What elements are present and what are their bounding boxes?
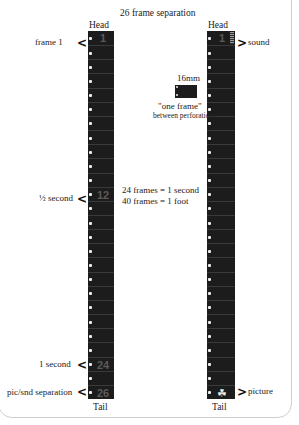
frame-number: 24 <box>94 358 112 372</box>
film-frame <box>88 144 114 159</box>
film-frame <box>88 73 114 88</box>
perforation <box>89 363 92 366</box>
film-frame <box>207 144 235 159</box>
perforation <box>208 165 211 168</box>
perforation <box>89 66 92 69</box>
film-frame <box>207 201 235 216</box>
right-tail-label: Tail <box>212 402 227 412</box>
right-film-strip: 1☘ <box>207 31 235 399</box>
perforation <box>208 122 211 125</box>
perforation <box>89 80 92 83</box>
perforation <box>89 137 92 140</box>
frame-number: 12 <box>94 188 112 202</box>
perforation <box>208 179 211 182</box>
film-frame <box>207 45 235 60</box>
film-frame <box>207 88 235 103</box>
perforation <box>208 52 211 55</box>
film-frame <box>88 88 114 103</box>
perforation <box>89 94 92 97</box>
perforation <box>89 377 92 380</box>
perforation <box>208 292 211 295</box>
perforation <box>89 165 92 168</box>
film-frame <box>207 130 235 145</box>
film-frame <box>207 257 235 272</box>
film-frame <box>88 229 114 244</box>
chevron-right-icon: > <box>237 386 247 398</box>
film-frame <box>207 59 235 74</box>
perforation <box>208 222 211 225</box>
perforation <box>208 80 211 83</box>
film-frame <box>207 314 235 329</box>
perforation <box>89 222 92 225</box>
film-frame: ☘ <box>207 385 235 400</box>
film-frame <box>88 201 114 216</box>
film-frame <box>207 328 235 343</box>
right-head-label: Head <box>208 20 228 30</box>
chevron-left-icon: < <box>77 37 87 49</box>
film-frame: 1 <box>207 31 235 45</box>
chevron-right-icon: > <box>237 37 247 49</box>
perforation <box>89 292 92 295</box>
perforation <box>176 94 178 96</box>
perforation <box>89 52 92 55</box>
perforation <box>89 391 92 394</box>
film-frame <box>88 371 114 386</box>
perforation <box>208 306 211 309</box>
film-frame <box>88 173 114 188</box>
left-head-label: Head <box>89 20 109 30</box>
marker-label-sound: sound <box>248 37 270 47</box>
marker-label-picture: picture <box>248 386 273 396</box>
film-frame <box>88 102 114 117</box>
perforation <box>89 122 92 125</box>
perforation <box>208 391 211 394</box>
perforation <box>208 207 211 210</box>
perforation <box>208 335 211 338</box>
film-frame <box>88 342 114 357</box>
inset-caption-line2: between perforations <box>153 111 216 120</box>
marker-label-one-second: 1 second <box>39 359 71 369</box>
film-frame <box>88 243 114 258</box>
film-frame: 24 <box>88 357 114 372</box>
perforation <box>208 94 211 97</box>
film-frame <box>207 243 235 258</box>
diagram-border <box>0 0 292 418</box>
marker-label-pic-snd-separation: pic/snd separation <box>7 387 72 397</box>
perforation <box>89 250 92 253</box>
single-frame-illustration <box>175 85 197 98</box>
film-frame <box>88 314 114 329</box>
film-frame <box>207 371 235 386</box>
perforation <box>89 37 92 40</box>
film-frame <box>207 342 235 357</box>
fact-frames-per-foot: 40 frames = 1 foot <box>122 196 189 206</box>
marker-label-frame-1: frame 1 <box>35 37 63 47</box>
frame-number: 1 <box>213 31 231 45</box>
perforation <box>89 335 92 338</box>
inset-caption-line1: "one frame" <box>158 101 202 111</box>
perforation <box>89 264 92 267</box>
perforation <box>89 179 92 182</box>
film-frame <box>207 158 235 173</box>
perforation <box>208 193 211 196</box>
perforation <box>208 137 211 140</box>
chevron-left-icon: < <box>77 359 87 371</box>
perforation <box>208 349 211 352</box>
perforation <box>89 193 92 196</box>
perforation <box>208 250 211 253</box>
film-frame <box>88 300 114 315</box>
perforation <box>176 86 178 88</box>
film-frame: 1 <box>88 31 114 45</box>
perforation <box>208 236 211 239</box>
left-tail-label: Tail <box>93 402 108 412</box>
film-frame <box>88 215 114 230</box>
film-frame <box>88 158 114 173</box>
perforation <box>208 321 211 324</box>
film-frame <box>88 272 114 287</box>
diagram-title: 26 frame separation <box>120 8 195 18</box>
inset-gauge-label: 16mm <box>177 73 200 83</box>
chevron-left-icon: < <box>77 386 87 398</box>
left-film-strip: 1122426 <box>88 31 114 399</box>
film-frame <box>88 257 114 272</box>
perforation <box>89 278 92 281</box>
film-frame <box>88 328 114 343</box>
chevron-left-icon: < <box>77 193 87 205</box>
